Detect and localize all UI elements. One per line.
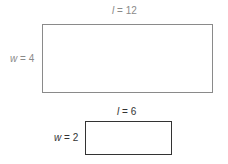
small-rectangle: [85, 121, 172, 155]
length-value: 6: [131, 106, 137, 117]
width-value: 4: [29, 53, 35, 64]
length-variable: l: [112, 5, 114, 16]
large-rect-width-label: w = 4: [10, 53, 34, 65]
small-rect-length-label: l = 6: [117, 106, 136, 118]
length-value: 12: [126, 5, 137, 16]
length-variable: l: [117, 106, 119, 117]
small-rect-width-label: w = 2: [54, 132, 78, 144]
large-rectangle: [42, 24, 213, 93]
width-variable: w: [54, 132, 61, 143]
width-value: 2: [73, 132, 79, 143]
width-variable: w: [10, 53, 17, 64]
large-rect-length-label: l = 12: [112, 5, 137, 17]
